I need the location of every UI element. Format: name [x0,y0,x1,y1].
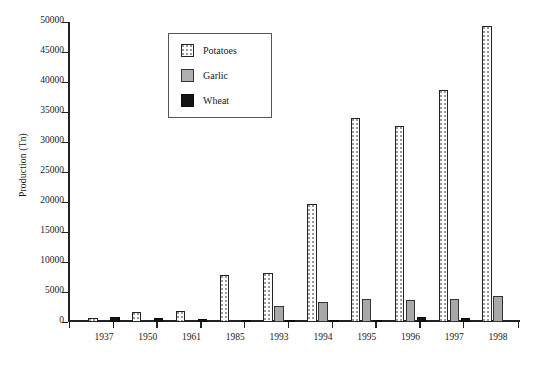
bar-potatoes-1937 [88,318,98,322]
x-tick-label: 1950 [138,332,157,342]
bar-wheat-1985 [242,320,252,322]
x-tick-mark [463,322,464,328]
x-tick-label: 1998 [489,332,508,342]
y-tick-label: 50000 [40,15,64,25]
y-tick-label: 45000 [40,45,64,55]
bar-potatoes-1961 [176,311,186,322]
bar-potatoes-1950 [132,312,142,322]
bar-potatoes-1998 [482,26,492,322]
x-tick-label: 1961 [182,332,201,342]
y-tick-label: 20000 [40,195,64,205]
x-tick-label: 1997 [445,332,464,342]
bar-garlic-1995 [362,299,372,322]
bar-potatoes-1996 [395,126,405,322]
x-tick-mark [69,322,70,328]
x-tick-mark [332,322,333,328]
bar-garlic-1993 [274,306,284,322]
x-tick-mark [113,322,114,328]
y-tick-label: 40000 [40,75,64,85]
y-tick-label: 35000 [40,105,64,115]
bar-wheat-1950 [154,318,164,323]
y-axis-line [68,22,70,322]
bar-wheat-1996 [417,317,427,322]
x-tick-label: 1937 [94,332,113,342]
bar-potatoes-1995 [351,118,361,322]
production-bar-chart: Production (Tn) 050001000015000200002500… [0,0,541,375]
legend-item-wheat: Wheat [181,94,229,107]
x-tick-label: 1985 [226,332,245,342]
y-tick-label: 25000 [40,165,64,175]
x-tick-label: 1994 [313,332,332,342]
legend-label-wheat: Wheat [203,95,229,106]
bar-potatoes-1985 [220,275,230,322]
x-tick-label: 1996 [401,332,420,342]
x-tick-mark [156,322,157,328]
wheat-swatch-icon [181,94,194,107]
x-tick-label: 1995 [357,332,376,342]
x-tick-mark [375,322,376,328]
plot-area: 0500010000150002000025000300003500040000… [68,22,520,322]
bar-potatoes-1997 [439,90,449,322]
bar-wheat-1961 [198,319,208,322]
legend-item-potatoes: Potatoes [181,44,237,57]
bar-wheat-1995 [373,320,383,322]
potatoes-swatch-icon [181,44,194,57]
bar-garlic-1994 [318,302,328,322]
y-tick-label: 5000 [45,285,64,295]
x-tick-mark [200,322,201,328]
bar-garlic-1997 [450,299,460,322]
x-tick-mark [419,322,420,328]
bar-garlic-1998 [493,296,503,322]
bar-wheat-1994 [329,320,339,322]
x-tick-mark [288,322,289,328]
x-tick-label: 1993 [270,332,289,342]
bar-garlic-1996 [406,300,416,322]
chart-legend: Potatoes Garlic Wheat [168,33,272,118]
x-tick-mark [518,322,519,328]
x-tick-mark [244,322,245,328]
legend-label-garlic: Garlic [203,70,228,81]
garlic-swatch-icon [181,69,194,82]
y-tick-label: 15000 [40,225,64,235]
bar-potatoes-1993 [263,273,273,322]
bar-wheat-1993 [285,320,295,322]
bar-potatoes-1994 [307,204,317,322]
y-tick-label: 30000 [40,135,64,145]
y-axis-title: Production (Tn) [18,95,28,235]
legend-item-garlic: Garlic [181,69,228,82]
legend-label-potatoes: Potatoes [203,45,237,56]
bar-wheat-1937 [110,317,120,322]
bar-wheat-1997 [461,318,471,322]
y-tick-label: 0 [59,315,64,325]
y-tick-label: 10000 [40,255,64,265]
